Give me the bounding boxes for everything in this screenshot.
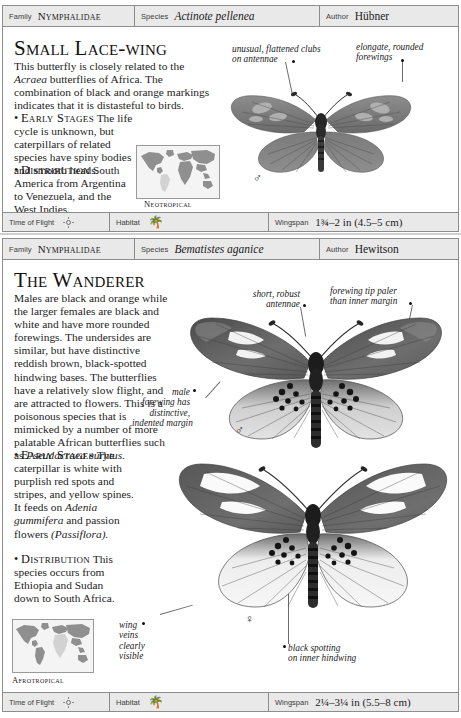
entry2-specimen-male [186, 302, 446, 467]
entry2-footer-bar: Time of Flight Habitat 🌴 Wingspan 2¼–3¼ … [2, 692, 459, 712]
entry2-anno-male-forewing-line2: forewing has [132, 397, 190, 407]
entry2-section-distribution: • Distribution This species occurs from … [14, 553, 126, 605]
entry1-early-stages-bullet: • [14, 111, 18, 125]
entry1-section-distribution: • Distribution South America from Argent… [14, 164, 132, 216]
entry2-time-of-flight-cell: Time of Flight [3, 693, 109, 711]
entry2-anno-black-spotting: black spotting on inner hindwing [288, 643, 356, 664]
entry1-anno-forewings-line1: elongate, rounded [356, 42, 423, 52]
entry2-description: Males are black and orange while the lar… [14, 292, 174, 462]
entry2-anno-male-forewing-line3: distinctive, [132, 408, 190, 418]
entry1-anno-antennae-clubs: unusual, flattened clubs on antennae [232, 44, 321, 65]
entry1-desc-part-0: This butterfly is closely related to the [14, 60, 184, 72]
entry1-wingspan-cell: Wingspan 1¾–2 in (4.5–5 cm) [268, 213, 458, 231]
entry2-specimen-female [176, 448, 448, 633]
entry1-wingspan-value: 1¾–2 in (4.5–5 cm) [315, 216, 402, 228]
entry-separator [0, 233, 461, 235]
entry1-male-symbol: ♂ [253, 172, 262, 184]
entry2-anno-wing-veins-line1: wing [119, 620, 145, 630]
sun-icon [63, 217, 74, 228]
entry2-early-stages-text-3: (Passiflora). [51, 528, 108, 540]
entry2-anno-black-spotting-dot [283, 645, 286, 648]
entry1-title: Small Lace-wing [14, 38, 167, 59]
entry2-female-symbol: ♀ [245, 613, 254, 625]
entry1-distribution-heading: Distribution [21, 163, 90, 177]
entry1-species-value: Actinote pellenea [174, 10, 254, 22]
entry2-anno-antennae-line1: short, robust [220, 289, 300, 299]
entry2-family-label: Family [9, 245, 32, 254]
entry1-species-label: Species [141, 12, 168, 21]
entry1-distribution-bullet: • [14, 163, 18, 177]
entry2-anno-male-forewing: male forewing has distinctive, indented … [132, 387, 190, 429]
entry2-author-label: Author [326, 245, 349, 254]
entry1-habitat-label: Habitat [116, 218, 140, 227]
entry2-author-cell: Author Hewitson [319, 239, 458, 259]
entry1-author-value: Hübner [355, 10, 390, 22]
entry2-anno-wing-veins-line2: veins [119, 630, 145, 640]
entry1-butterfly-svg [226, 70, 416, 185]
entry2-map-caption: Afrotropical [12, 675, 64, 685]
entry2-header-bar: Family Nymphalidae Species Bematistes ag… [2, 238, 459, 260]
entry1-anno-antennae-line1: unusual, flattened clubs [232, 44, 321, 54]
entry2-female-butterfly-svg [176, 448, 448, 633]
entry2-world-map-svg [13, 620, 93, 672]
entry2-male-butterfly-svg [186, 302, 446, 467]
entry1-anno-forewings: elongate, rounded forewings [356, 42, 423, 63]
entry2-family-value: Nymphalidae [38, 243, 101, 255]
sun-icon [63, 697, 74, 708]
entry1-footer-bar: Time of Flight Habitat 🌴 Wingspan 1¾–2 i… [2, 212, 459, 232]
entry1-description: This butterfly is closely related to the… [14, 60, 219, 112]
entry2-anno-male-forewing-line4: indented margin [132, 418, 190, 428]
entry1-anno-forewings-line2: forewings [356, 52, 423, 62]
entry2-anno-wing-veins-line3: clearly [119, 641, 145, 651]
entry1-world-map-svg [137, 146, 219, 198]
entry2-anno-wing-veins-dot [142, 622, 145, 625]
entry1-family-cell: Family Nymphalidae [3, 6, 134, 26]
entry2-habitat-label: Habitat [116, 698, 140, 707]
entry1-habitat-cell: Habitat 🌴 [109, 213, 268, 231]
entry2-species-label: Species [141, 245, 168, 254]
entry2-anno-black-spotting-line2: on inner hindwing [288, 653, 356, 663]
entry1-author-cell: Author Hübner [319, 6, 458, 26]
entry1-time-of-flight-label: Time of Flight [9, 218, 54, 227]
entry2-distribution-map [12, 619, 94, 673]
entry2-species-cell: Species Bematistes aganice [134, 239, 319, 259]
entry1-family-value: Nymphalidae [38, 10, 101, 22]
entry-the-wanderer: Family Nymphalidae Species Bematistes ag… [0, 236, 461, 718]
entry2-early-stages-heading: Early Stages [21, 448, 94, 462]
entry2-author-value: Hewitson [355, 243, 399, 255]
palm-tree-icon: 🌴 [147, 696, 163, 708]
entry2-anno-forewing-tip-line1: forewing tip paler [330, 286, 397, 296]
entry2-title: The Wanderer [14, 270, 145, 291]
entry-small-lace-wing: Family Nymphalidae Species Actinote pell… [0, 0, 461, 235]
entry1-anno-antennae-dot [292, 60, 295, 63]
entry2-wingspan-value: 2¼–3¼ in (5.5–8 cm) [315, 696, 410, 708]
entry2-habitat-cell: Habitat 🌴 [109, 693, 268, 711]
entry2-distribution-heading: Distribution [21, 552, 90, 566]
entry2-species-value: Bematistes aganice [174, 243, 263, 255]
entry1-species-cell: Species Actinote pellenea [134, 6, 319, 26]
entry2-anno-black-spotting-line1: black spotting [288, 643, 356, 653]
entry1-specimen-male [226, 70, 416, 185]
entry2-section-early-stages: • Early Stages The caterpillar is white … [14, 449, 136, 541]
field-guide-page: Family Nymphalidae Species Actinote pell… [0, 0, 461, 718]
entry2-distribution-bullet: • [14, 552, 18, 566]
entry1-header-bar: Family Nymphalidae Species Actinote pell… [2, 5, 459, 27]
entry2-time-of-flight-label: Time of Flight [9, 698, 54, 707]
entry2-early-stages-bullet: • [14, 448, 18, 462]
entry1-family-label: Family [9, 12, 32, 21]
entry1-time-of-flight-cell: Time of Flight [3, 213, 109, 231]
entry2-wingspan-cell: Wingspan 2¼–3¼ in (5.5–8 cm) [268, 693, 458, 711]
entry1-author-label: Author [326, 12, 349, 21]
entry2-wingspan-label: Wingspan [275, 698, 308, 707]
entry2-desc-part-0: Males are black and orange while the lar… [14, 292, 167, 461]
entry2-anno-male-forewing-line1: male [132, 387, 190, 397]
entry1-distribution-map [136, 145, 220, 199]
entry2-male-symbol: ♂ [235, 424, 244, 436]
entry1-anno-antennae-line2: on antennae [232, 54, 321, 64]
entry1-map-caption: Neotropical [144, 199, 192, 209]
entry2-anno-wing-veins: wing veins clearly visible [119, 620, 145, 662]
entry2-anno-wing-veins-line4: visible [119, 651, 145, 661]
entry1-early-stages-heading: Early Stages [21, 111, 94, 125]
palm-tree-icon: 🌴 [147, 216, 163, 228]
entry1-wingspan-label: Wingspan [275, 218, 308, 227]
